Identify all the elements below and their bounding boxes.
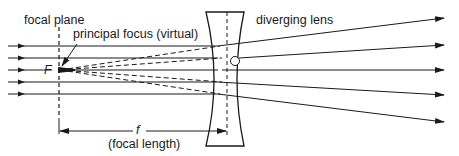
outgoing-rays (218, 18, 444, 122)
diverging-lens-label: diverging lens (256, 14, 333, 27)
diverging-lens (206, 12, 244, 146)
focal-plane-label: focal plane (24, 14, 84, 27)
incoming-rays (8, 46, 218, 94)
principal-focus-pointer (62, 44, 77, 66)
optical-center (231, 57, 240, 66)
principal-focus-label: principal focus (virtual) (73, 28, 198, 41)
focal-length-label: (focal length) (108, 138, 180, 151)
focus-symbol-label: F (44, 64, 52, 77)
focal-length-symbol: f (136, 124, 139, 137)
incoming-ray-arrows (18, 44, 25, 97)
